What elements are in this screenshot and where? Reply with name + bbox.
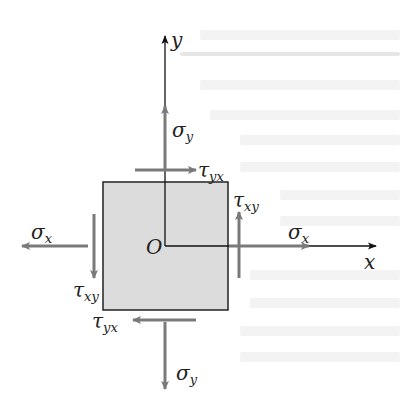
tau-yx-bottom-symbol: τ	[92, 309, 103, 333]
tau-yx-bottom-sub: yx	[103, 320, 118, 335]
origin-label: O	[146, 237, 162, 257]
sigma-y-bottom-sub: y	[190, 372, 197, 387]
tau-yx-top-symbol: τ	[198, 158, 209, 182]
diagram-canvas	[0, 0, 403, 404]
sigma-y-top-sub: y	[186, 129, 193, 144]
stress-element-diagram: y x O σy τyx τxy σx σx τxy τyx σy	[0, 0, 403, 404]
tau-xy-right-symbol: τ	[233, 188, 244, 212]
tau-xy-left-symbol: τ	[73, 278, 84, 302]
y-axis-label: y	[171, 30, 182, 50]
x-axis-label: x	[364, 252, 375, 272]
tau-yx-top-label: τyx	[198, 160, 224, 183]
tau-xy-left-sub: xy	[84, 289, 99, 304]
sigma-y-bottom-symbol: σ	[176, 361, 190, 385]
sigma-x-right-sub: x	[302, 231, 309, 246]
sigma-x-left-symbol: σ	[31, 220, 45, 244]
tau-xy-right-sub: xy	[244, 199, 259, 214]
tau-xy-right-label: τxy	[233, 190, 259, 213]
sigma-y-bottom-label: σy	[176, 363, 197, 386]
sigma-y-top-label: σy	[172, 120, 193, 143]
sigma-x-left-label: σx	[31, 222, 52, 245]
sigma-y-top-symbol: σ	[172, 118, 186, 142]
tau-xy-left-label: τxy	[73, 280, 99, 303]
sigma-x-left-sub: x	[45, 231, 52, 246]
tau-yx-bottom-label: τyx	[92, 311, 118, 334]
sigma-x-right-symbol: σ	[288, 220, 302, 244]
tau-yx-top-sub: yx	[209, 169, 224, 184]
sigma-x-right-label: σx	[288, 222, 309, 245]
